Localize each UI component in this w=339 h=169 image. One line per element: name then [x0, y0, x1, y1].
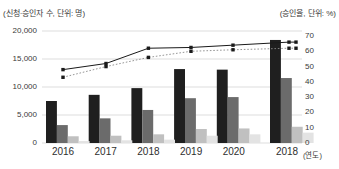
right-axis-tick-40: 40	[305, 77, 314, 87]
bar-series-2-2018	[281, 78, 292, 143]
bar-series-2-2016	[57, 125, 68, 143]
left-axis-tick-15,000: 15,000	[0, 54, 37, 64]
left-axis-tick-0: 0	[0, 138, 37, 148]
approval-rate-solid-line-marker	[61, 68, 64, 71]
left-axis-tick-20,000: 20,000	[0, 26, 37, 36]
x-axis-label-4-2020: 2020	[212, 146, 256, 157]
right-axis-tick-20: 20	[305, 107, 314, 117]
x-axis-unit-label: (연도)	[303, 149, 322, 160]
bar-series-4-2017	[121, 140, 132, 143]
bar-series-3-2019	[196, 129, 207, 143]
bar-series-1-2018	[131, 88, 142, 143]
left-axis-tick-5,000: 5,000	[0, 110, 37, 120]
bar-series-1-2018	[270, 40, 281, 143]
approval-rate-solid-line-marker	[294, 40, 297, 43]
x-axis-label-1-2017: 2017	[84, 146, 128, 157]
bar-series-1-2019	[174, 69, 185, 143]
bar-series-3-2020	[239, 128, 250, 143]
approval-rate-dotted-line-marker	[61, 76, 64, 79]
bar-series-3-2017	[111, 136, 122, 143]
x-axis-label-3-2019: 2019	[169, 146, 213, 157]
bar-series-3-2016	[68, 136, 79, 143]
bar-series-4-2018	[164, 140, 175, 143]
combo-bar-line-chart: (신청·승인자 수, 단위: 명) (승인율, 단위: %) 20,00015,…	[0, 0, 339, 169]
bar-series-3-2018	[292, 127, 303, 143]
x-axis-label-0-2016: 2016	[41, 146, 85, 157]
bar-series-2-2017	[100, 118, 111, 143]
bar-series-1-2016	[46, 101, 57, 143]
approval-rate-dotted-line-marker	[147, 56, 150, 59]
bar-series-4-2016	[79, 141, 90, 143]
bar-series-4-2019	[207, 136, 218, 143]
bar-series-2-2020	[228, 97, 239, 143]
approval-rate-solid-line	[63, 42, 296, 70]
bar-series-1-2020	[217, 70, 228, 143]
right-axis-tick-30: 30	[305, 92, 314, 102]
approval-rate-dotted-line-marker	[104, 65, 107, 68]
left-axis-tick-10,000: 10,000	[0, 82, 37, 92]
right-axis-tick-70: 70	[305, 31, 314, 41]
x-axis-label-2-2018: 2018	[126, 146, 170, 157]
approval-rate-dotted-line-marker	[287, 47, 290, 50]
approval-rate-solid-line-marker	[189, 46, 192, 49]
bar-series-1-2017	[89, 95, 100, 143]
approval-rate-dotted-line-marker	[189, 50, 192, 53]
right-axis-tick-10: 10	[305, 123, 314, 133]
bar-series-2-2019	[185, 98, 196, 143]
right-axis-tick-60: 60	[305, 46, 314, 56]
approval-rate-solid-line-marker	[287, 40, 290, 43]
right-axis-tick-50: 50	[305, 62, 314, 72]
approval-rate-solid-line-marker	[104, 62, 107, 65]
bar-series-4-2020	[250, 134, 261, 143]
bar-series-3-2018	[153, 134, 164, 143]
plot-canvas	[0, 0, 339, 169]
approval-rate-dotted-line-marker	[231, 48, 234, 51]
approval-rate-dotted-line-marker	[294, 47, 297, 50]
bar-series-2-2018	[142, 110, 153, 143]
approval-rate-solid-line-marker	[231, 43, 234, 46]
approval-rate-solid-line-marker	[147, 47, 150, 50]
